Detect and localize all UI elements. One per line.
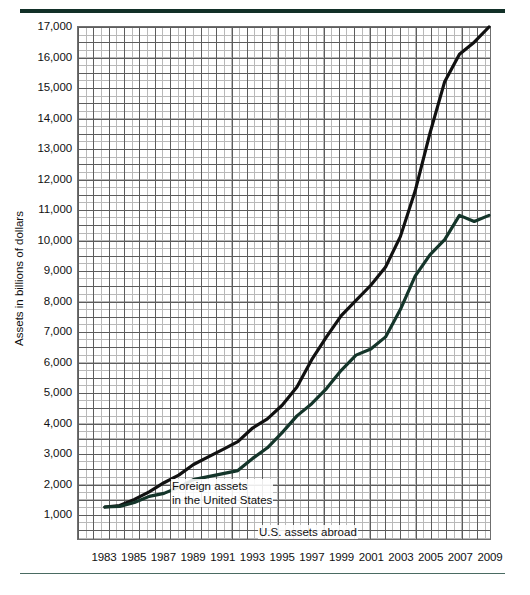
series-line: [105, 27, 489, 507]
x-tick-label: 2009: [470, 551, 510, 564]
annotation-foreign-line2: in the United States: [172, 494, 272, 506]
annotation-foreign-assets: Foreign assetsin the United States: [171, 479, 273, 507]
annotation-us-assets-abroad: U.S. assets abroad: [258, 525, 358, 539]
y-axis-title: Assets in billions of dollars: [13, 164, 26, 394]
chart-figure: 1,0002,0003,0004,0005,0006,0007,0008,000…: [0, 0, 530, 595]
plot-area: Foreign assetsin the United States U.S. …: [77, 26, 491, 540]
series-line: [105, 215, 489, 507]
annotation-foreign-line1: Foreign assets: [172, 480, 247, 492]
chart-lines: [78, 27, 490, 539]
